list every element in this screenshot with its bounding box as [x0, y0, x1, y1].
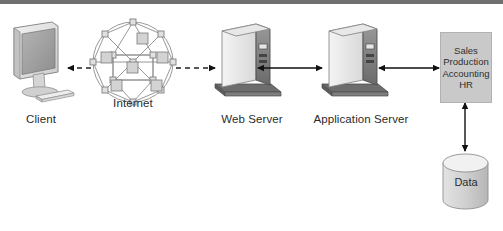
- application-server-label: Application Server: [302, 113, 420, 125]
- internet-node-servers: [101, 33, 168, 91]
- department-hr: HR: [459, 79, 473, 91]
- client-monitor-icon: [14, 22, 58, 97]
- client-label: Client: [8, 113, 74, 125]
- web-server-icon: [215, 24, 281, 96]
- departments-box: Sales Production Accounting HR: [440, 32, 492, 103]
- web-server-label: Web Server: [207, 113, 297, 125]
- application-server-icon: [322, 24, 388, 96]
- internet-label: Internet: [100, 97, 166, 109]
- network-architecture-diagram: Sales Production Accounting HR Client In…: [0, 0, 503, 231]
- data-label: Data: [443, 176, 489, 188]
- department-production: Production: [443, 56, 488, 68]
- department-sales: Sales: [454, 45, 478, 57]
- department-accounting: Accounting: [442, 68, 489, 80]
